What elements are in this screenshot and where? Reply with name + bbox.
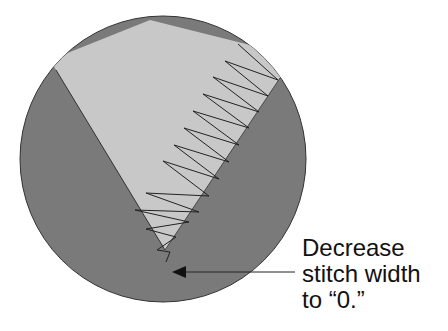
annotation-line-3: to “0.” (302, 287, 421, 313)
annotation-label: Decrease stitch width to “0.” (302, 235, 421, 313)
annotation-line-1: Decrease (302, 235, 421, 261)
annotation-line-2: stitch width (302, 261, 421, 287)
